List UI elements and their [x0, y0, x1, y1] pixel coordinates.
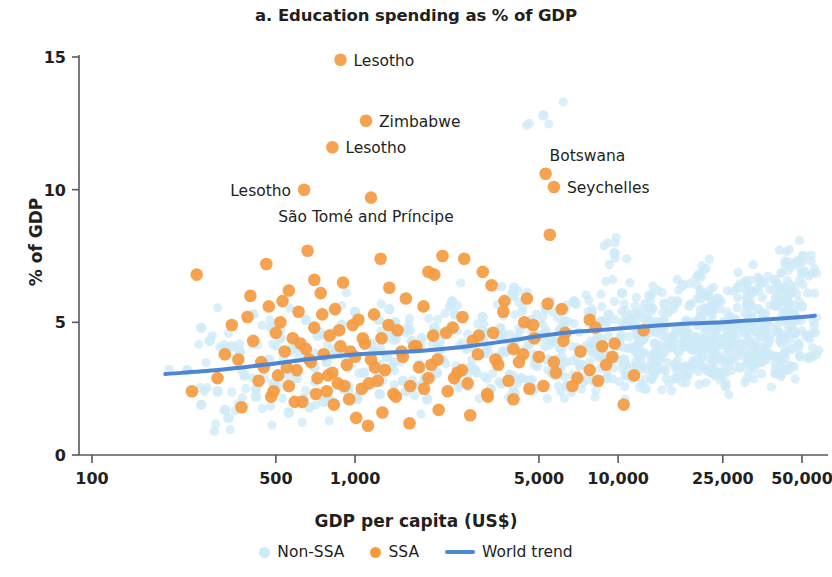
x-tick-label: 100 [75, 469, 108, 488]
country-annotation-label: Lesotho [354, 52, 415, 70]
legend-dot-non-ssa-icon [259, 547, 270, 558]
legend-label-non-ssa: Non-SSA [277, 543, 344, 561]
chart-legend: Non-SSA SSA World trend [0, 543, 832, 561]
country-annotation-label: Lesotho [345, 139, 406, 157]
country-annotation-label: São Tomé and Príncipe [278, 208, 454, 226]
x-tick-label: 5,000 [514, 469, 565, 488]
legend-label-world-trend: World trend [482, 543, 573, 561]
legend-item-ssa: SSA [370, 543, 419, 561]
legend-label-ssa: SSA [388, 543, 419, 561]
y-tick-label: 10 [44, 181, 66, 200]
chart-figure: a. Education spending as % of GDP % of G… [0, 0, 832, 577]
scatter-plot: 0510151005001,0005,00010,00025,00050,000… [0, 0, 832, 577]
country-annotation-label: Lesotho [230, 182, 291, 200]
x-tick-label: 1,000 [330, 469, 381, 488]
annotation-layer: LesothoZimbabweLesothoLesothoSão Tomé an… [230, 52, 649, 226]
country-annotation-label: Seychelles [567, 179, 650, 197]
y-tick-label: 5 [55, 313, 66, 332]
x-tick-label: 50,000 [771, 469, 832, 488]
x-tick-label: 25,000 [692, 469, 754, 488]
country-annotation-label: Botswana [550, 147, 626, 165]
y-tick-label: 15 [44, 48, 66, 67]
country-annotation-label: Zimbabwe [379, 113, 460, 131]
x-tick-label: 500 [259, 469, 292, 488]
legend-item-world-trend: World trend [445, 543, 573, 561]
legend-dot-ssa-icon [370, 547, 381, 558]
legend-item-non-ssa: Non-SSA [259, 543, 344, 561]
y-tick-label: 0 [55, 446, 66, 465]
legend-line-world-trend-icon [445, 550, 475, 554]
x-tick-label: 10,000 [587, 469, 649, 488]
